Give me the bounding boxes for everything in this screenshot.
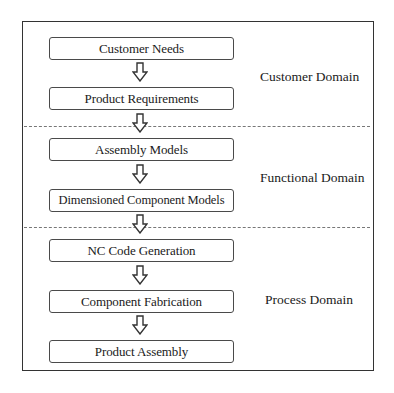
domain-separator-2 xyxy=(24,227,370,228)
domain-label-functional: Functional Domain xyxy=(260,170,365,186)
step-product-requirements: Product Requirements xyxy=(49,87,234,110)
step-nc-code-generation: NC Code Generation xyxy=(49,239,234,262)
down-arrow-icon xyxy=(132,164,148,184)
domain-label-customer: Customer Domain xyxy=(260,69,359,85)
down-arrow-icon xyxy=(132,315,148,335)
step-dimensioned-component-models: Dimensioned Component Models xyxy=(49,189,234,212)
down-arrow-icon xyxy=(132,265,148,285)
domain-label-process: Process Domain xyxy=(265,292,353,308)
step-customer-needs: Customer Needs xyxy=(49,37,234,60)
step-component-fabrication: Component Fabrication xyxy=(49,290,234,313)
step-product-assembly: Product Assembly xyxy=(49,340,234,363)
down-arrow-icon xyxy=(132,214,148,234)
down-arrow-icon xyxy=(132,62,148,82)
down-arrow-icon xyxy=(132,113,148,133)
step-assembly-models: Assembly Models xyxy=(49,138,234,161)
domain-separator-1 xyxy=(24,126,370,127)
